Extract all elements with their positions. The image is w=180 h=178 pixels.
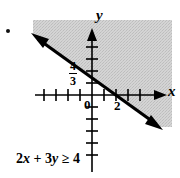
fraction-numerator: 4 [69, 60, 77, 74]
y-intercept-fraction-label: 4 3 [69, 60, 77, 87]
fraction-denominator: 3 [69, 74, 77, 87]
x-intercept-label: 2 [114, 99, 121, 112]
caption-plus: + [30, 151, 45, 166]
origin-label: 0 [84, 98, 91, 111]
caption-coef-a: 2 [16, 151, 23, 166]
caption-constant: 4 [73, 151, 80, 166]
y-axis-label: y [96, 8, 103, 23]
inequality-caption: 2x + 3y ≥ 4 [16, 152, 80, 166]
inequality-graph-figure: y x 0 2 4 3 2x + 3y ≥ 4 [0, 0, 180, 178]
caption-relation: ≥ [58, 151, 73, 166]
caption-var-x: x [23, 151, 30, 166]
caption-coef-b: 3 [45, 151, 52, 166]
x-axis-label: x [168, 84, 176, 99]
